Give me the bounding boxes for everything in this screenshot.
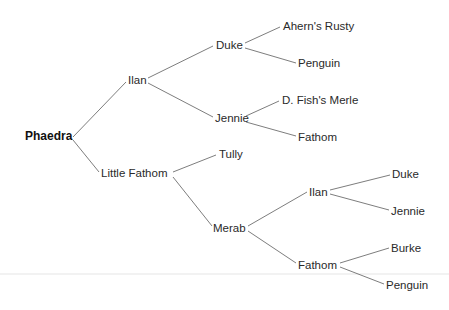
node-ilan: Ilan [128,73,147,87]
edge-phaedra-ilan [73,82,126,137]
node-merab: Merab [213,221,246,235]
node-fathom-2: Fathom [298,258,337,272]
edge-merab-fathom [248,231,296,263]
node-penguin-2: Penguin [386,278,428,292]
edge-jennie-fathom [246,122,296,136]
pedigree-diagram: Phaedra Ilan Little Fathom Duke Jennie T… [0,0,449,310]
node-d-fishs-merle: D. Fish's Merle [282,93,358,107]
node-phaedra: Phaedra [25,129,72,143]
node-aherns-rusty: Ahern's Rusty [283,19,354,33]
edge-merab-ilan [248,192,307,226]
edge-ilan2-duke2 [330,175,390,190]
node-duke: Duke [216,38,243,52]
node-ilan-2: Ilan [309,185,328,199]
edge-duke-ahernsrusty [245,27,280,43]
edge-littlefathom-tully [173,155,216,172]
node-fathom: Fathom [298,130,337,144]
edge-duke-penguin [245,48,296,63]
edge-littlefathom-merab [173,177,212,226]
edge-fathom2-penguin2 [340,267,384,284]
edge-ilan-duke [148,46,213,78]
edge-ilan-jennie [148,83,213,117]
node-jennie-2: Jennie [391,204,425,218]
node-little-fathom: Little Fathom [101,166,167,180]
node-duke-2: Duke [392,167,419,181]
edge-fathom2-burke [340,248,389,263]
node-tully: Tully [219,147,243,161]
node-penguin: Penguin [298,56,340,70]
edge-jennie-dfishsmerle [246,101,279,116]
node-jennie: Jennie [215,111,249,125]
edge-ilan2-jennie2 [330,194,389,210]
edge-phaedra-littlefathom [73,140,99,172]
node-burke: Burke [391,241,421,255]
